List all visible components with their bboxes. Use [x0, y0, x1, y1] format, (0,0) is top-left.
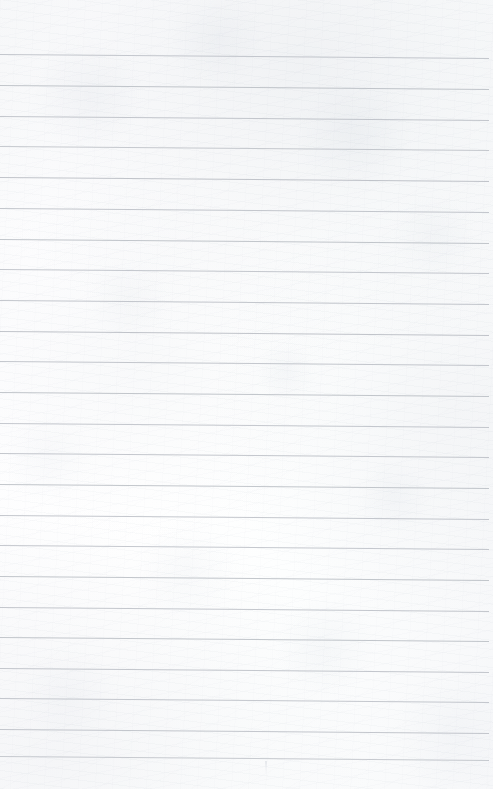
notepad-page — [0, 0, 493, 789]
writing-area[interactable] — [0, 54, 493, 756]
